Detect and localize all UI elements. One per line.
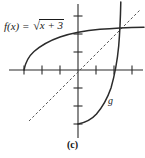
panel-caption: (c) xyxy=(0,140,145,150)
g-curve xyxy=(78,2,121,124)
figure-panel: f(x) = √x + 3 g (c) xyxy=(0,0,145,158)
equals-sign: = xyxy=(22,20,29,32)
function-name: f(x) xyxy=(4,20,19,32)
g-curve-label: g xyxy=(108,96,113,106)
function-label: f(x) = √x + 3 xyxy=(4,20,64,32)
radical-expression: √x + 3 xyxy=(32,20,64,32)
radicand: x + 3 xyxy=(39,19,64,31)
f-curve xyxy=(24,27,144,70)
